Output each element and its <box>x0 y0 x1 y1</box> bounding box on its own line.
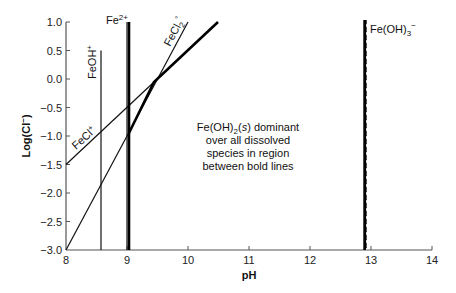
x-tick-label: 10 <box>182 254 194 266</box>
feoh3-label: Fe(OH)3− <box>370 21 416 38</box>
x-tick-label: 13 <box>365 254 377 266</box>
y-tick-label: 0.5 <box>47 45 62 57</box>
region-annotation: Fe(OH)2(s) dominant over all dissolved s… <box>197 121 299 172</box>
y-tick-label: −1.5 <box>40 159 62 171</box>
x-tick-label: 9 <box>124 254 130 266</box>
x-axis-title: pH <box>242 269 257 281</box>
x-tick-labels: 8 9 10 11 12 13 14 <box>63 254 438 266</box>
y-tick-labels: 1.0 0.5 0.0 −0.5 −1.0 −1.5 −2.0 −2.5 −3.… <box>40 16 62 256</box>
fecl2-label: FeCl2° <box>160 15 189 50</box>
y-tick-label: 0.0 <box>47 73 62 85</box>
y-tick-label: −1.0 <box>40 130 62 142</box>
y-tick-label: −2.0 <box>40 187 62 199</box>
fecl-label: FeCl+ <box>69 123 99 152</box>
feoh-label: FeOH+ <box>85 45 98 79</box>
x-tick-label: 8 <box>63 254 69 266</box>
fe2-label: Fe2+ <box>106 13 128 26</box>
y-tick-label: 1.0 <box>47 16 62 28</box>
fecl-boundary-line <box>66 82 154 165</box>
annotation-line-4: between bold lines <box>202 160 294 172</box>
x-tick-label: 14 <box>426 254 438 266</box>
chart: 1.0 0.5 0.0 −0.5 −1.0 −1.5 −2.0 −2.5 −3.… <box>0 0 456 293</box>
annotation-line-3: species in region <box>207 147 290 159</box>
y-tick-label: −3.0 <box>40 244 62 256</box>
x-tick-label: 12 <box>304 254 316 266</box>
y-tick-label: −0.5 <box>40 102 62 114</box>
x-tick-label: 11 <box>243 254 254 266</box>
y-axis-title: Log(Cl−) <box>19 114 32 158</box>
y-tick-label: −2.5 <box>40 216 62 228</box>
annotation-line-2: over all dissolved <box>206 134 290 146</box>
